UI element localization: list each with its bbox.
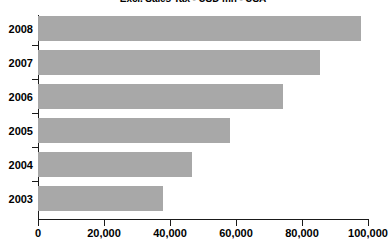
bar-2007 — [38, 50, 320, 75]
category-tick — [32, 181, 39, 182]
category-label-2005: 2005 — [0, 125, 33, 137]
value-tick — [38, 219, 39, 226]
value-tick — [170, 219, 171, 226]
value-tick — [302, 219, 303, 226]
category-tick — [32, 79, 39, 80]
bar-2006 — [38, 84, 283, 109]
category-tick — [32, 113, 39, 114]
value-tick — [236, 219, 237, 226]
value-label-100000: 100,000 — [348, 227, 388, 239]
value-label-80000: 80,000 — [285, 227, 319, 239]
category-tick — [32, 45, 39, 46]
value-label-60000: 60,000 — [219, 227, 253, 239]
chart-title: Excl. Sales Tax - USD mn - USA — [0, 0, 386, 5]
category-label-2006: 2006 — [0, 91, 33, 103]
value-label-0: 0 — [35, 227, 41, 239]
category-label-2007: 2007 — [0, 57, 33, 69]
bar-2005 — [38, 118, 230, 143]
value-tick — [368, 219, 369, 226]
value-label-20000: 20,000 — [87, 227, 121, 239]
bar-2003 — [38, 186, 163, 211]
value-tick — [104, 219, 105, 226]
category-label-2003: 2003 — [0, 193, 33, 205]
category-tick — [32, 147, 39, 148]
plot-area — [38, 16, 368, 219]
bar-2008 — [38, 16, 361, 41]
bar-2004 — [38, 152, 192, 177]
value-label-40000: 40,000 — [153, 227, 187, 239]
category-label-2008: 2008 — [0, 23, 33, 35]
category-label-2004: 2004 — [0, 159, 33, 171]
value-axis-line — [38, 219, 369, 220]
